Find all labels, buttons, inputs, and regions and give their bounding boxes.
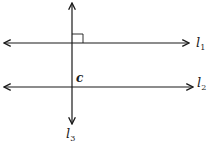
label-l3: l3 <box>66 126 75 143</box>
label-l1: l1 <box>196 35 205 52</box>
right-angle-marker-icon <box>72 34 83 43</box>
label-l2: l2 <box>197 75 206 92</box>
diagram-canvas: l1 l2 l3 c <box>0 0 209 144</box>
point-label-c: c <box>76 71 84 85</box>
